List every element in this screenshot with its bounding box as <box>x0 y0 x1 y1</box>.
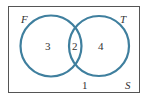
universe-label: S <box>125 79 131 91</box>
set-t-label: T <box>120 13 127 25</box>
region-outside-count: 1 <box>82 79 88 91</box>
region-f-only-count: 3 <box>45 40 51 52</box>
region-intersection-count: 2 <box>72 40 78 52</box>
set-f-label: F <box>20 13 28 25</box>
region-t-only-count: 4 <box>98 40 104 52</box>
venn-diagram: F T 3 2 4 1 S <box>0 0 148 99</box>
